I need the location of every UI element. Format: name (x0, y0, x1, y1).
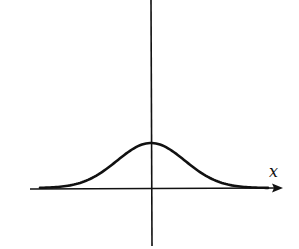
x-axis (30, 188, 276, 189)
bell-curve-plot (0, 0, 299, 249)
chart-canvas: x (0, 0, 299, 249)
x-axis-label: x (269, 164, 278, 180)
y-axis (151, 0, 152, 246)
bell-curve-line (40, 143, 268, 188)
